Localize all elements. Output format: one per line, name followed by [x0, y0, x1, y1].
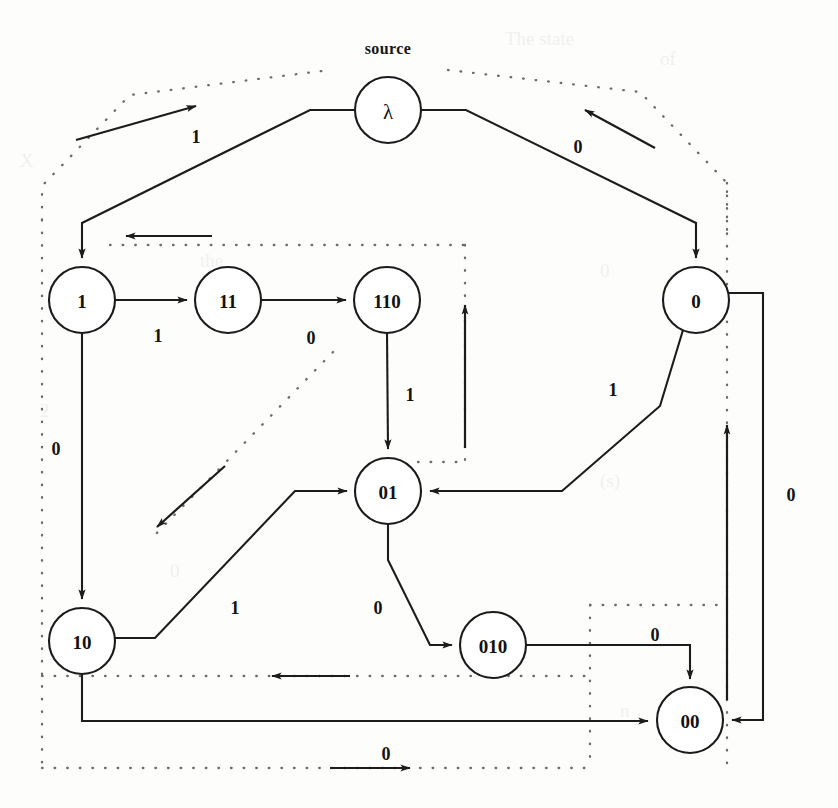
- edge-label-010-00: 0: [651, 625, 660, 645]
- dotted-boundary-top-left: [42, 70, 330, 220]
- edge-10-to-00: [82, 674, 648, 721]
- edge-label-0-01: 1: [609, 380, 618, 400]
- edge-label-lambda-1: 1: [192, 127, 201, 147]
- edge-0-to-01: [430, 330, 683, 491]
- node-01-label: 01: [379, 482, 398, 503]
- edge-label-0-00: 0: [787, 485, 796, 505]
- source-caption: source: [365, 40, 412, 57]
- node-1-label: 1: [77, 291, 87, 312]
- edge-labels: 1 0 1 0 0 1 1 0 1 0 0 0: [52, 127, 796, 764]
- node-11-label: 11: [219, 291, 237, 312]
- node-11[interactable]: 11: [195, 267, 261, 333]
- node-110-label: 110: [373, 291, 400, 312]
- node-10[interactable]: 10: [49, 608, 115, 674]
- dotted-boundaries: [42, 70, 727, 770]
- node-010-label: 010: [479, 636, 508, 657]
- edge-label-lambda-0: 0: [574, 137, 583, 157]
- node-0-label: 0: [691, 291, 701, 312]
- graph-edges: [82, 110, 763, 721]
- node-01[interactable]: 01: [355, 458, 421, 524]
- edge-lambda-to-1: [82, 110, 355, 258]
- edge-label-11-110: 0: [307, 328, 316, 348]
- node-10-label: 10: [73, 632, 92, 653]
- edge-label-10-01: 1: [231, 598, 240, 618]
- dotted-boundary-diagonal: [150, 352, 333, 540]
- edge-110-to-01: [387, 333, 388, 449]
- node-lambda[interactable]: λ: [355, 77, 421, 143]
- edge-label-01-010: 0: [374, 598, 383, 618]
- annot-up-left-top-right-icon: [585, 110, 655, 148]
- state-graph-figure: The state of X the 0 2 (s) 0 n: [0, 0, 838, 808]
- node-1[interactable]: 1: [49, 267, 115, 333]
- edge-lambda-to-0: [421, 110, 696, 258]
- edge-01-to-010: [388, 524, 452, 645]
- node-110[interactable]: 110: [354, 267, 420, 333]
- edge-label-1-11: 1: [154, 326, 163, 346]
- graph-canvas: λ 1 11 110 0 01: [0, 0, 838, 808]
- node-lambda-label: λ: [383, 100, 394, 124]
- dotted-boundary-top-right: [448, 70, 727, 230]
- node-00-label: 00: [681, 711, 700, 732]
- edge-010-to-00: [526, 645, 690, 679]
- annot-up-right-top-left-icon: [76, 106, 196, 140]
- annot-down-left-mid-icon: [157, 466, 225, 527]
- edge-label-10-00: 0: [382, 744, 391, 764]
- region-annotation-arrows: [76, 106, 727, 768]
- node-00[interactable]: 00: [657, 687, 723, 753]
- node-010[interactable]: 010: [460, 612, 526, 678]
- edge-label-1-10: 0: [52, 439, 61, 459]
- edge-label-110-01: 1: [406, 385, 415, 405]
- edge-0-to-00: [729, 293, 763, 720]
- node-0[interactable]: 0: [663, 267, 729, 333]
- graph-nodes: λ 1 11 110 0 01: [49, 77, 729, 753]
